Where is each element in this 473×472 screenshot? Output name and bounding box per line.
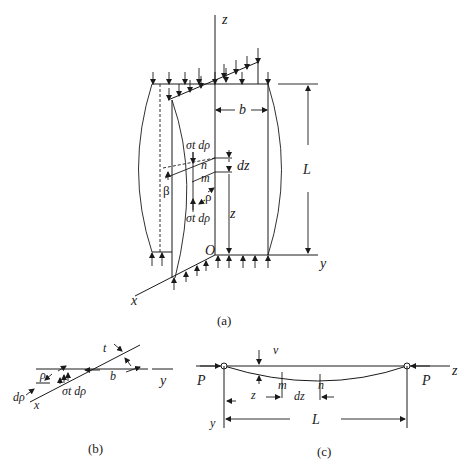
x-axis-line: [135, 255, 215, 296]
rho-label: ρ: [205, 189, 212, 204]
bottom-compressive-loads: [152, 253, 268, 290]
deflected-shape: [224, 366, 407, 381]
strip-dashed-line: [163, 158, 215, 168]
load-right-label: P: [421, 373, 431, 388]
diagram-canvas: z y x O: [0, 0, 473, 472]
panel-c: z P P y v m n z dz L (c): [196, 343, 458, 459]
x-axis-label: x: [33, 398, 40, 412]
point-m-label: m: [201, 171, 210, 185]
thickness-arrow-bottom: [125, 358, 131, 366]
width-label: b: [110, 369, 116, 383]
y-axis-label: y: [158, 373, 167, 388]
caption-c: (c): [317, 444, 331, 459]
rho-arrow-left: [45, 374, 52, 380]
deflection-label: v: [273, 343, 279, 357]
point-m-label: m: [278, 378, 287, 392]
y-axis-label: y: [318, 256, 327, 271]
beta-label: β: [163, 183, 170, 198]
z-axis-label: z: [221, 12, 228, 27]
z-coordinate-label: z: [229, 206, 236, 221]
length-label: L: [311, 412, 320, 427]
top-compressive-loads: [153, 48, 268, 100]
force-bottom-label: σt dρ: [186, 211, 210, 225]
right-buckled-curve: [268, 84, 282, 255]
d-rho-arrow: [26, 389, 34, 395]
d-rho-label: dρ: [13, 390, 25, 404]
left-buckled-curve: [139, 84, 153, 252]
panel-a: z y x O: [130, 12, 327, 328]
point-n-label: n: [318, 378, 324, 392]
force-label: σt dρ: [62, 384, 86, 398]
flange-buckled-curve: [172, 100, 187, 278]
dz-label: dz: [294, 389, 305, 403]
point-n-label: n: [201, 158, 207, 172]
z-axis-label: z: [451, 363, 458, 378]
y-axis-label: y: [209, 416, 216, 430]
thickness-label: t: [103, 341, 107, 355]
thickness-arrow-top: [114, 344, 122, 351]
top-slanted-edge: [168, 62, 258, 100]
origin-label: O: [205, 243, 215, 258]
dz-label: dz: [237, 158, 250, 173]
force-top-label: σt dρ: [186, 138, 210, 152]
caption-b: (b): [88, 441, 103, 456]
panel-b: y x t ρ dρ σt dρ b (b): [13, 341, 173, 456]
caption-a: (a): [217, 313, 231, 328]
width-label: b: [239, 102, 246, 117]
x-axis-label: x: [130, 293, 138, 308]
z-coordinate-label: z: [250, 388, 256, 402]
length-label: L: [302, 162, 311, 177]
load-left-label: P: [196, 373, 206, 388]
